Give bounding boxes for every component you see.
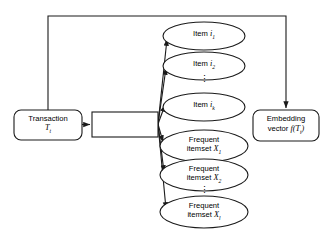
edge-hidden-to-item-2 — [158, 68, 166, 124]
diagram-canvas: Transaction Tt Embedding vector f(Tt) It… — [0, 0, 334, 234]
node-embedding-vector[interactable] — [253, 110, 319, 141]
node-transaction[interactable] — [14, 110, 82, 140]
node-item-1[interactable] — [163, 22, 245, 50]
node-hidden-layer[interactable] — [92, 112, 158, 137]
node-item-k[interactable] — [163, 93, 245, 121]
diagram-svg — [0, 0, 334, 234]
vertical-ellipsis-items-icon: ⋮ — [198, 75, 210, 84]
node-itemset-1[interactable] — [160, 130, 248, 162]
node-itemset-l[interactable] — [160, 196, 248, 228]
vertical-ellipsis-itemsets-icon: ⋮ — [198, 186, 210, 195]
